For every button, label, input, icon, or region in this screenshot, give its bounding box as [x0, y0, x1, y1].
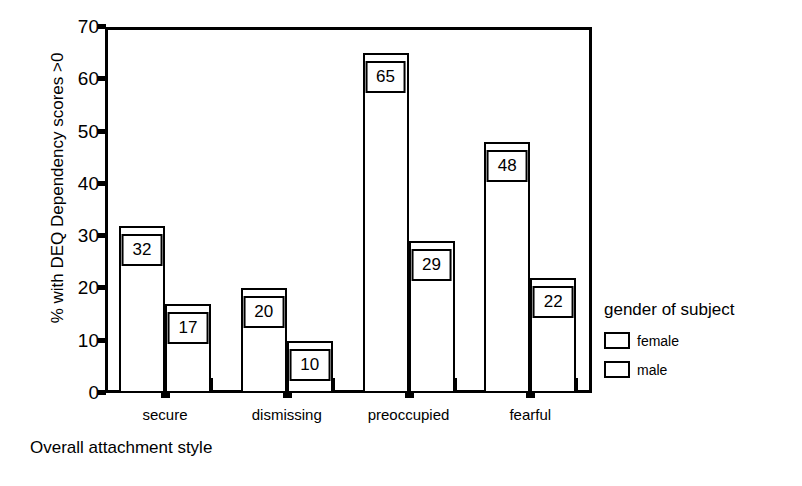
bar-value-label: 22 — [533, 286, 574, 318]
bar-value-label: 20 — [243, 296, 284, 328]
y-tick-label: 40 — [78, 173, 99, 195]
legend-entry: male — [604, 361, 794, 378]
plot-frame-top — [105, 27, 592, 30]
bar: 65 — [363, 53, 409, 393]
legend-title: gender of subject — [604, 300, 794, 320]
bar-value-label: 48 — [487, 150, 528, 182]
bar-value-label: 17 — [168, 312, 209, 344]
legend-swatch — [604, 332, 630, 349]
bar-value-label: 10 — [289, 349, 330, 381]
plot-frame-right — [589, 27, 592, 393]
legend-swatch — [604, 361, 630, 378]
y-tick-mark — [98, 76, 106, 81]
x-axis-title: Overall attachment style — [30, 438, 212, 458]
bar: 29 — [409, 241, 455, 393]
y-tick-label: 30 — [78, 225, 99, 247]
legend-entries: femalemale — [604, 332, 794, 378]
y-tick-mark — [98, 129, 106, 134]
bar-value-label: 65 — [365, 61, 406, 93]
y-tick-mark — [98, 338, 106, 343]
x-axis-category-label: preoccupied — [368, 406, 450, 423]
x-tick-minor — [211, 378, 213, 393]
x-tick-minor — [576, 378, 578, 393]
y-tick-label: 20 — [78, 277, 99, 299]
legend-label: female — [637, 333, 679, 349]
y-tick-mark — [98, 285, 106, 290]
y-tick-label: 60 — [78, 68, 99, 90]
plot-area: 010203040506070 securedismissingpreoccup… — [105, 27, 592, 393]
y-tick-label: 10 — [78, 330, 99, 352]
bar: 22 — [530, 278, 576, 393]
x-axis-category-label: dismissing — [252, 406, 322, 423]
y-tick-label: 70 — [78, 16, 99, 38]
legend: gender of subject femalemale — [604, 300, 794, 390]
chart-canvas: % with DEQ Dependency scores >0 01020304… — [0, 0, 802, 486]
y-tick-label: 0 — [88, 382, 99, 404]
bar: 48 — [484, 142, 530, 393]
bar: 20 — [241, 288, 287, 393]
x-axis-category-label: secure — [142, 406, 187, 423]
y-tick-label: 50 — [78, 121, 99, 143]
x-tick-minor — [455, 378, 457, 393]
y-tick-mark — [98, 181, 106, 186]
bar: 10 — [287, 341, 333, 393]
y-axis-title: % with DEQ Dependency scores >0 — [48, 0, 68, 388]
bar: 17 — [165, 304, 211, 393]
y-tick-mark — [98, 24, 106, 29]
bar-value-label: 29 — [411, 249, 452, 281]
y-tick-mark — [98, 233, 106, 238]
bar: 32 — [119, 226, 165, 393]
bar-value-label: 32 — [122, 234, 163, 266]
y-tick-mark — [98, 390, 106, 395]
x-axis-category-label: fearful — [509, 406, 551, 423]
legend-entry: female — [604, 332, 794, 349]
legend-label: male — [637, 362, 667, 378]
x-tick-minor — [333, 378, 335, 393]
